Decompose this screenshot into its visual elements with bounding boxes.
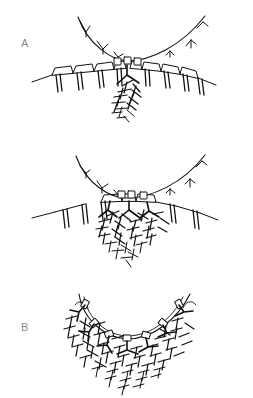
arc-tick-group — [80, 161, 207, 195]
panel-b-drawing — [0, 140, 253, 280]
microfibril — [150, 234, 152, 245]
microfibril — [120, 88, 123, 99]
vesicle-prong — [183, 74, 189, 91]
prong-group — [63, 201, 199, 229]
vesicle-prong — [198, 78, 204, 95]
terminal-complex-rosette — [140, 192, 147, 199]
microfibril — [84, 356, 86, 367]
microfibril — [179, 333, 189, 337]
microfibril — [106, 352, 108, 363]
band-line — [200, 213, 218, 220]
microfibril — [117, 117, 126, 118]
band-segment — [52, 66, 73, 75]
microfibril — [151, 374, 161, 377]
microfibril — [138, 356, 140, 367]
figure-canvas: A — [0, 0, 253, 398]
arc-tick — [186, 40, 196, 48]
microfibril — [167, 339, 169, 350]
microfibril — [122, 214, 131, 221]
vesicle-prong — [164, 71, 170, 88]
rosette-stem — [70, 305, 85, 321]
vesicle-prong — [145, 69, 150, 86]
terminal-complex-group — [114, 57, 141, 65]
microfibril — [122, 80, 133, 86]
microfibril — [112, 102, 125, 103]
panel-c: C — [0, 275, 253, 398]
microfibril — [98, 333, 100, 344]
band-segment — [73, 64, 94, 73]
terminal-complex-group — [118, 191, 147, 199]
panel-c-drawing — [0, 275, 253, 398]
microfibril — [147, 226, 149, 238]
terminal-complex-rosette — [114, 58, 121, 65]
microfibril — [174, 352, 184, 356]
terminal-complex-rosette — [134, 58, 141, 65]
microfibril — [140, 378, 142, 388]
microfibril — [146, 364, 148, 375]
microfibril — [158, 227, 167, 232]
arc-tick — [166, 189, 175, 195]
panel-a-drawing — [0, 0, 253, 140]
microfibril — [162, 360, 164, 370]
arc-tick — [80, 21, 90, 37]
microfibril — [116, 248, 118, 259]
membrane-arc — [78, 16, 205, 61]
band-line — [32, 75, 52, 82]
microfibril — [133, 384, 144, 387]
microfibril — [118, 346, 120, 357]
band-line — [32, 212, 55, 218]
microfibril — [114, 362, 116, 373]
microfibril — [124, 379, 126, 389]
microfibril-mesh — [112, 65, 141, 122]
rosette-stem — [119, 201, 140, 218]
microfibril — [170, 348, 172, 359]
arc-tick — [80, 166, 90, 178]
microfibril — [158, 368, 160, 378]
microfibril — [122, 355, 124, 366]
microfibril — [127, 110, 134, 116]
arc-tick — [166, 51, 174, 57]
vesicle-prong — [56, 74, 62, 92]
band-line — [176, 206, 200, 213]
microfibril — [76, 345, 78, 356]
band-line — [55, 204, 85, 212]
microfibril — [182, 341, 192, 345]
microfibril — [126, 260, 131, 267]
terminal-complex-rosette — [118, 191, 125, 198]
microfibril-mesh — [64, 316, 194, 395]
microfibril — [142, 371, 144, 381]
microfibril — [185, 323, 194, 329]
vesicle-prong — [170, 204, 176, 223]
panel-b: B — [0, 140, 253, 280]
microfibril — [111, 370, 113, 380]
vesicle-prong — [77, 72, 83, 90]
band-line — [198, 78, 216, 85]
vesicle-prong — [82, 204, 88, 224]
microfibril — [122, 386, 124, 395]
microfibril — [109, 377, 111, 387]
arc-tick — [185, 179, 195, 187]
terminal-complex-rosette — [124, 57, 131, 64]
microfibril — [96, 367, 98, 377]
vesicle-prong — [98, 70, 104, 88]
band-segment — [94, 62, 114, 71]
microfibril — [126, 371, 128, 382]
microfibril — [121, 257, 132, 258]
rosette-stem — [117, 65, 139, 84]
microfibril — [160, 218, 169, 224]
microfibril — [109, 241, 111, 252]
vesicle-prong — [101, 201, 107, 220]
panel-a: A — [0, 0, 253, 140]
microfibril — [130, 364, 132, 375]
vesicle-prong — [63, 209, 69, 228]
microfibril — [154, 354, 156, 365]
arc-tick-group — [80, 21, 208, 57]
arc-tick — [114, 52, 123, 57]
terminal-complex-rosette — [123, 335, 131, 341]
terminal-complex-rosette — [128, 191, 135, 198]
band-line — [156, 202, 176, 206]
microfibril — [153, 212, 163, 214]
